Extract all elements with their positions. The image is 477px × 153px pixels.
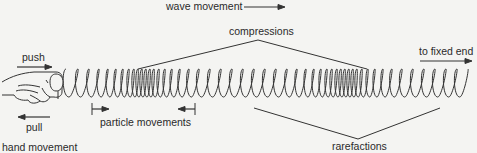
compressions-leader-lines bbox=[138, 40, 367, 69]
pull-label: pull bbox=[26, 121, 42, 133]
compressions-label: compressions bbox=[229, 25, 294, 37]
longitudinal-wave-diagram bbox=[0, 0, 477, 153]
hand-movement-label: hand movement bbox=[2, 141, 77, 153]
spring-coil bbox=[63, 69, 468, 97]
push-label: push bbox=[22, 51, 45, 63]
wave-arrow-icon bbox=[244, 5, 285, 10]
particle-right-arrow-icon bbox=[92, 103, 109, 115]
rarefactions-label: rarefactions bbox=[332, 140, 387, 152]
hand-icon bbox=[2, 72, 63, 103]
pull-arrow-icon bbox=[18, 115, 50, 120]
rarefactions-leader-lines bbox=[254, 108, 440, 139]
push-arrow-icon bbox=[17, 65, 52, 70]
fixed-end-arrow-icon bbox=[420, 59, 472, 64]
particle-movements-label: particle movements bbox=[100, 116, 191, 128]
to-fixed-end-label: to fixed end bbox=[419, 45, 473, 57]
particle-left-arrow-icon bbox=[178, 103, 195, 115]
wave-movement-label: wave movement bbox=[166, 0, 242, 12]
